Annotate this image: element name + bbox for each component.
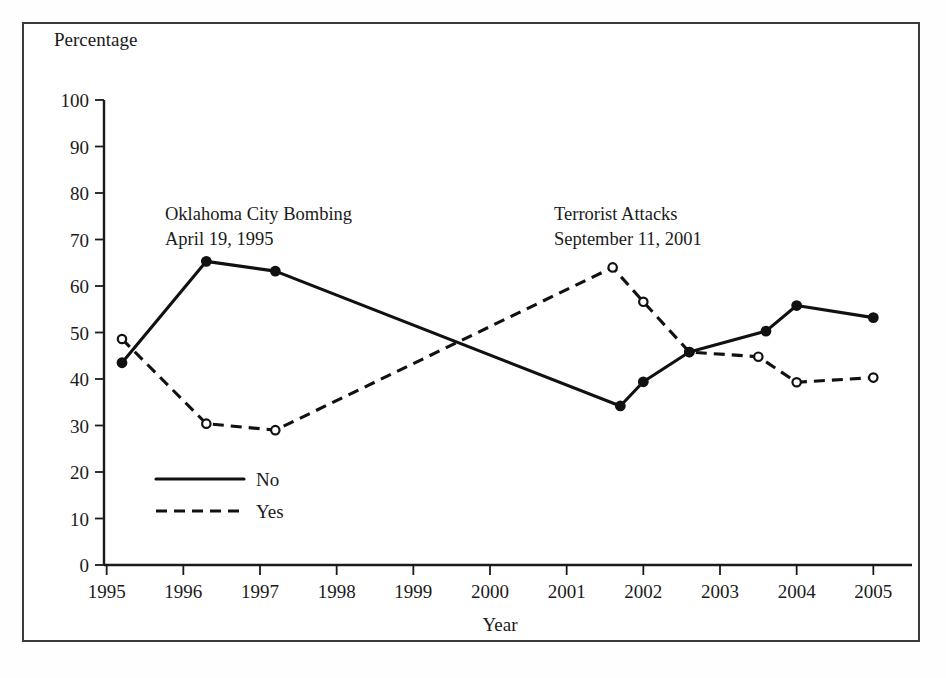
x-tick-label: 1995 bbox=[88, 581, 126, 602]
y-tick-label: 40 bbox=[70, 369, 89, 390]
x-tick-label: 2004 bbox=[778, 581, 817, 602]
legend-label-yes: Yes bbox=[256, 501, 284, 522]
x-tick-label: 2005 bbox=[854, 581, 892, 602]
x-tick-label: 2001 bbox=[548, 581, 586, 602]
x-tick-label: 1996 bbox=[164, 581, 202, 602]
x-tick-label: 1998 bbox=[318, 581, 356, 602]
data-point-no bbox=[792, 301, 801, 310]
x-tick-label: 2003 bbox=[701, 581, 739, 602]
series-line-no bbox=[122, 261, 873, 406]
line-chart: Percentage010203040506070809010019951996… bbox=[24, 24, 918, 640]
figure-root: Percentage010203040506070809010019951996… bbox=[0, 0, 946, 678]
data-point-yes bbox=[754, 352, 762, 360]
x-axis-title: Year bbox=[482, 614, 518, 635]
data-point-no bbox=[761, 327, 770, 336]
annotation-2-line1: Terrorist Attacks bbox=[554, 204, 678, 224]
x-tick-label: 1997 bbox=[241, 581, 279, 602]
x-tick-label: 2000 bbox=[471, 581, 509, 602]
annotation-2-line2: September 11, 2001 bbox=[554, 229, 702, 249]
y-tick-label: 0 bbox=[80, 555, 90, 576]
y-tick-label: 50 bbox=[70, 323, 89, 344]
data-point-no bbox=[202, 257, 211, 266]
data-point-no bbox=[869, 313, 878, 322]
data-point-no bbox=[685, 347, 694, 356]
y-tick-label: 80 bbox=[70, 183, 89, 204]
data-point-yes bbox=[271, 426, 279, 434]
y-axis-title: Percentage bbox=[54, 29, 137, 50]
y-tick-label: 20 bbox=[70, 462, 89, 483]
data-point-yes bbox=[639, 298, 647, 306]
data-point-no bbox=[616, 401, 625, 410]
annotation-1-line1: Oklahoma City Bombing bbox=[165, 204, 352, 224]
data-point-yes bbox=[202, 419, 210, 427]
y-tick-label: 100 bbox=[61, 90, 90, 111]
y-tick-label: 60 bbox=[70, 276, 89, 297]
chart-frame: Percentage010203040506070809010019951996… bbox=[22, 22, 920, 642]
series-line-yes bbox=[122, 267, 873, 430]
x-tick-label: 1999 bbox=[394, 581, 432, 602]
data-point-yes bbox=[869, 373, 877, 381]
y-tick-label: 90 bbox=[70, 137, 89, 158]
data-point-yes bbox=[792, 378, 800, 386]
x-tick-label: 2002 bbox=[624, 581, 662, 602]
data-point-no bbox=[639, 377, 648, 386]
y-tick-label: 30 bbox=[70, 416, 89, 437]
data-point-no bbox=[117, 358, 126, 367]
data-point-yes bbox=[608, 263, 616, 271]
annotation-1-line2: April 19, 1995 bbox=[165, 229, 273, 249]
y-tick-label: 70 bbox=[70, 230, 89, 251]
data-point-no bbox=[271, 267, 280, 276]
data-point-yes bbox=[118, 335, 126, 343]
y-tick-label: 10 bbox=[70, 509, 89, 530]
legend-label-no: No bbox=[256, 469, 279, 490]
